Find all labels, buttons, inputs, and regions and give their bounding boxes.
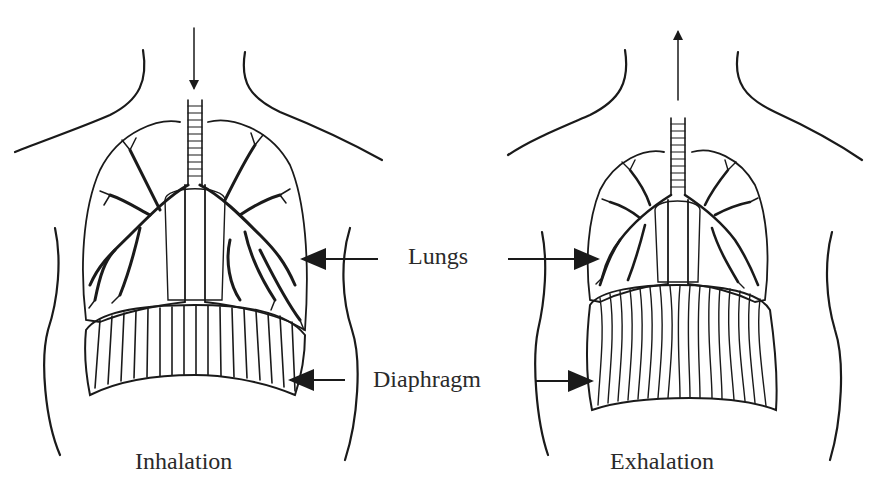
left-lung [83,121,185,322]
exhalation-figure [508,32,862,460]
body-outline-right-shoulder [244,52,382,160]
body-outline-left-side [44,228,60,455]
diaphragm-exhale [587,285,776,410]
exhalation-caption: Exhalation [610,448,714,475]
body-outline-right-shoulder [737,52,862,160]
lungs-label: Lungs [408,243,468,270]
diaphragm-label: Diaphragm [373,366,481,393]
body-outline-right-side [343,228,357,460]
inhalation-figure [15,28,382,460]
body-outline-left-shoulder [508,50,626,155]
body-outline-left-shoulder [15,50,144,152]
right-lung [205,121,307,330]
body-outline-left-side [535,232,548,455]
inhalation-caption: Inhalation [135,448,232,475]
body-outline-right-side [827,232,841,460]
